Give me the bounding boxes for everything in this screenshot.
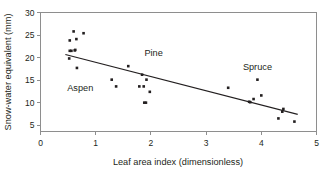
y-tick-label: 30 <box>25 8 35 18</box>
scatter-plot-figure: 51015202530 012345 AspenPineSpruce Leaf … <box>0 0 327 172</box>
data-point <box>142 85 145 88</box>
data-point <box>260 94 263 97</box>
data-point <box>82 32 85 35</box>
group-annotations-layer: AspenPineSpruce <box>67 48 272 93</box>
x-tick-label: 0 <box>38 138 43 148</box>
data-point <box>115 85 118 88</box>
data-point <box>149 91 152 94</box>
data-point <box>70 50 73 53</box>
group-label-pine: Pine <box>144 48 162 58</box>
data-point <box>252 98 255 101</box>
y-axis-title: Snow-water equivalent (mm) <box>3 14 13 131</box>
data-point <box>293 120 296 123</box>
group-label-aspen: Aspen <box>67 83 93 93</box>
x-axis-ticks: 012345 <box>38 132 319 148</box>
data-point <box>68 39 71 42</box>
x-tick-label: 1 <box>93 138 98 148</box>
x-tick-label: 2 <box>149 138 154 148</box>
y-tick-label: 20 <box>25 53 35 63</box>
data-points-layer <box>68 30 296 123</box>
y-tick-label: 10 <box>25 98 35 108</box>
data-point <box>74 49 77 52</box>
chart-canvas: 51015202530 012345 AspenPineSpruce Leaf … <box>0 0 327 172</box>
data-point <box>145 78 148 81</box>
y-tick-label: 15 <box>25 75 35 85</box>
y-axis-ticks: 51015202530 <box>25 8 40 131</box>
data-point <box>72 30 75 33</box>
group-label-spruce: Spruce <box>243 62 272 72</box>
x-tick-label: 5 <box>314 138 319 148</box>
data-point <box>256 78 259 81</box>
x-axis-title: Leaf area index (dimensionless) <box>113 157 243 167</box>
plot-frame <box>41 13 317 132</box>
y-tick-label: 5 <box>30 120 35 130</box>
data-point <box>75 38 78 41</box>
data-point <box>277 117 280 120</box>
data-point <box>145 101 148 104</box>
data-point <box>127 65 130 68</box>
data-point <box>227 86 230 89</box>
data-point <box>68 57 71 60</box>
x-tick-label: 3 <box>204 138 209 148</box>
data-point <box>138 85 141 88</box>
x-tick-label: 4 <box>259 138 264 148</box>
data-point <box>76 67 79 70</box>
y-tick-label: 25 <box>25 30 35 40</box>
data-point <box>110 78 113 81</box>
